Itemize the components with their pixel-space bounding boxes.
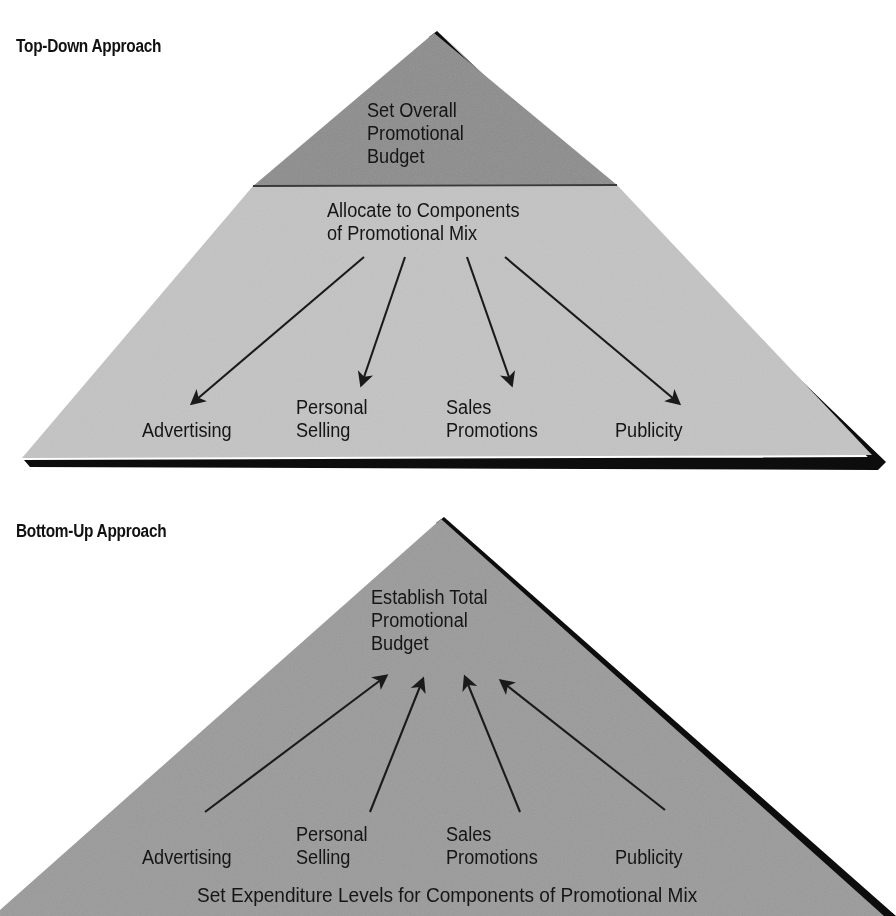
top-component-advertising: Advertising	[142, 419, 232, 442]
top-pyramid-divider	[253, 185, 617, 186]
top-component-publicity: Publicity	[615, 419, 683, 442]
top-body-label: Allocate to Components of Promotional Mi…	[327, 199, 520, 245]
bottom-up-heading: Bottom-Up Approach	[16, 521, 166, 542]
top-down-heading: Top-Down Approach	[16, 36, 161, 57]
bottom-component-publicity: Publicity	[615, 846, 683, 869]
top-component-sales-promotions: Sales Promotions	[446, 396, 538, 442]
top-apex-label: Set Overall Promotional Budget	[367, 99, 464, 168]
bottom-apex-label: Establish Total Promotional Budget	[371, 586, 488, 655]
bottom-component-personal-selling: Personal Selling	[296, 823, 368, 869]
bottom-component-sales-promotions: Sales Promotions	[446, 823, 538, 869]
bottom-pyramid-body	[0, 519, 884, 916]
bottom-base-label: Set Expenditure Levels for Components of…	[197, 883, 697, 906]
figure-canvas: Top-Down Approach Set Overall Promotiona…	[0, 0, 896, 916]
bottom-component-advertising: Advertising	[142, 846, 232, 869]
top-component-personal-selling: Personal Selling	[296, 396, 368, 442]
